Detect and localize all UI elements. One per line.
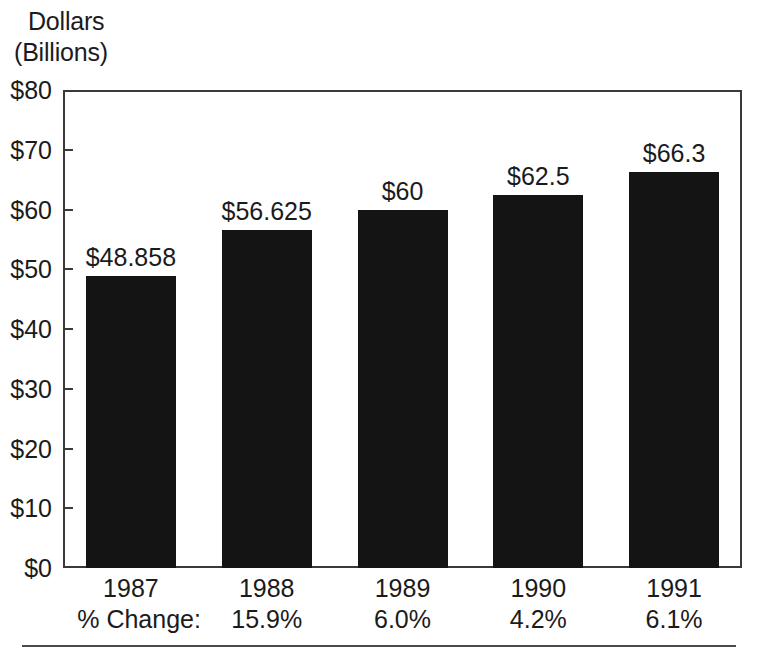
y-axis-tick-label: $50: [0, 257, 52, 282]
category-label: 1989: [333, 574, 473, 603]
percent-change-value: 15.9%: [197, 605, 337, 634]
bar-chart: Dollars (Billions) $80$70$60$50$40$30$20…: [0, 0, 758, 661]
category-label: 1988: [197, 574, 337, 603]
y-axis-tick-label: $20: [0, 437, 52, 462]
y-axis-tick-mark: [63, 448, 73, 450]
bar-value-label: $48.858: [51, 245, 211, 270]
percent-change-value: 6.1%: [604, 605, 744, 634]
bar-value-label: $62.5: [458, 164, 618, 189]
bar: [86, 276, 176, 568]
y-axis-title: Dollars (Billions): [14, 6, 108, 68]
y-axis-tick-mark: [63, 388, 73, 390]
bar: [358, 210, 448, 569]
category-label: 1991: [604, 574, 744, 603]
y-axis-tick-mark: [63, 209, 73, 211]
bar: [629, 172, 719, 568]
bar: [222, 230, 312, 568]
y-axis-tick-label: $60: [0, 198, 52, 223]
y-axis-tick-label: $0: [0, 556, 52, 581]
y-axis-tick-mark: [63, 149, 73, 151]
category-label: 1987: [61, 574, 201, 603]
y-axis-tick-label: $40: [0, 317, 52, 342]
y-axis-tick-label: $70: [0, 138, 52, 163]
y-axis-tick-mark: [63, 328, 73, 330]
percent-change-row-label: % Change:: [0, 605, 201, 634]
bottom-divider: [22, 645, 736, 647]
y-axis-tick-label: $80: [0, 78, 52, 103]
y-axis-tick-label: $30: [0, 377, 52, 402]
bar: [493, 195, 583, 568]
bar-value-label: $66.3: [594, 141, 754, 166]
y-axis-tick-mark: [63, 507, 73, 509]
y-axis-title-line-2: (Billions): [14, 37, 108, 68]
y-axis-title-line-1: Dollars: [14, 6, 108, 37]
percent-change-value: 6.0%: [333, 605, 473, 634]
y-axis-tick-label: $10: [0, 496, 52, 521]
percent-change-value: 4.2%: [468, 605, 608, 634]
category-label: 1990: [468, 574, 608, 603]
